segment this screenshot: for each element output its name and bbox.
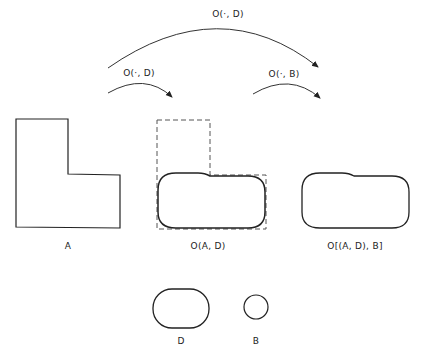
small-right-arrow-arc: [253, 84, 320, 98]
big-arrow-label: O(·, D): [212, 9, 244, 19]
diagram-drawing: [0, 0, 424, 359]
small-left-arrow-label: O(·, D): [123, 68, 155, 78]
label-opening-ADB: O[(A, D), B]: [327, 241, 382, 251]
label-A: A: [65, 241, 71, 251]
label-opening-AD: O(A, D): [190, 241, 225, 251]
label-B: B: [253, 336, 259, 346]
shape-opening-ADB: [302, 173, 409, 228]
morphological-opening-diagram: O(·, D) O(·, D) O(·, B) A O(A, D) O[(A, …: [0, 0, 424, 359]
shape-opening-AD: [158, 173, 265, 228]
shape-D: [153, 289, 209, 328]
shape-A: [16, 119, 120, 228]
small-left-arrow-arc: [108, 83, 172, 97]
label-D: D: [177, 336, 184, 346]
shape-B: [244, 295, 268, 319]
small-right-arrow-label: O(·, B): [269, 69, 300, 79]
big-arrow-arc: [108, 29, 318, 68]
shape-A-dashed-outline: [157, 120, 266, 229]
